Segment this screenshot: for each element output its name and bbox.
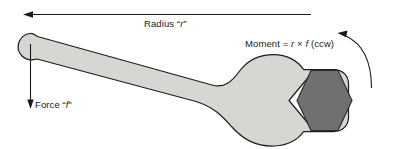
moment-times-symbol: × [294,38,305,49]
moment-arc-path [345,36,372,89]
force-label-prefix: Force [35,99,63,110]
radius-arrowhead-left [23,11,33,17]
radius-label-prefix: Radius [144,18,177,29]
wrench-shape [18,33,348,146]
radius-dimension-arrow [23,11,311,17]
force-label: Force “f” [35,99,72,110]
moment-arrowhead-ccw [338,31,348,38]
moment-label-suffix: (ccw) [308,38,334,49]
torque-wrench-diagram: Radius “r” Moment = r × f (ccw) Force “f… [0,0,404,149]
moment-label: Moment = r × f (ccw) [245,38,334,49]
moment-label-prefix: Moment = [245,38,291,49]
force-close-quote: ” [69,99,72,110]
radius-close-quote: ” [183,18,186,29]
radius-label: Radius “r” [144,18,187,29]
force-arrowhead-down [27,100,33,110]
diagram-canvas [0,0,404,149]
